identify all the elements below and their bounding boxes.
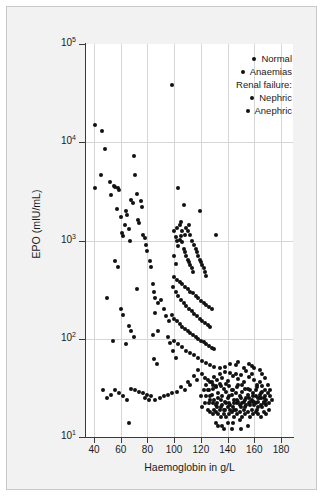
data-point (175, 390, 179, 394)
legend-heading: Renal failure: (196, 78, 292, 91)
data-point (252, 400, 256, 404)
data-point (246, 410, 250, 414)
legend-item: Anaemias (196, 65, 292, 78)
data-point (159, 298, 163, 302)
data-point (103, 147, 107, 151)
data-point (188, 233, 192, 237)
data-point (231, 421, 235, 425)
data-point (170, 391, 174, 395)
legend-marker-icon (252, 57, 256, 61)
x-tick-mark (281, 438, 282, 443)
data-point (211, 387, 215, 391)
legend-item: Nephric (196, 91, 292, 104)
data-point (246, 424, 250, 428)
data-point (171, 285, 175, 289)
data-point (132, 154, 136, 158)
x-tick-label: 120 (186, 444, 216, 455)
data-point (200, 405, 204, 409)
data-point (199, 394, 203, 398)
data-point (105, 396, 109, 400)
data-point (246, 387, 250, 391)
data-point (124, 209, 128, 213)
data-point (147, 398, 151, 402)
data-point (244, 403, 248, 407)
x-tick-mark (174, 438, 175, 443)
legend-item: Normal (196, 52, 292, 65)
legend-label: Anephric (255, 105, 293, 116)
data-point (133, 173, 137, 177)
data-point (222, 427, 226, 431)
data-point (250, 408, 254, 412)
data-point (236, 377, 240, 381)
legend-marker-icon (241, 70, 245, 74)
data-point (238, 418, 242, 422)
data-point (162, 307, 166, 311)
data-point (247, 396, 251, 400)
data-point (127, 421, 131, 425)
data-point (239, 373, 243, 377)
data-point (124, 342, 128, 346)
data-point (145, 249, 149, 253)
data-point (140, 205, 144, 209)
x-tick-label: 180 (266, 444, 296, 455)
data-point (153, 296, 157, 300)
data-point (111, 339, 115, 343)
data-point (212, 365, 216, 369)
data-point (183, 388, 187, 392)
data-point (219, 398, 223, 402)
data-point (151, 282, 155, 286)
data-point (168, 341, 172, 345)
data-point (109, 193, 113, 197)
data-point (135, 287, 139, 291)
data-point (220, 376, 224, 380)
data-point (191, 270, 195, 274)
data-point (152, 357, 156, 361)
data-point (214, 233, 218, 237)
data-point (109, 393, 113, 397)
legend: NormalAnaemiasRenal failure:NephricAneph… (196, 52, 292, 117)
data-point (188, 383, 192, 387)
data-point (238, 410, 242, 414)
data-point (236, 400, 240, 404)
x-axis-label: Haemoglobin in g/L (86, 461, 293, 473)
data-point (228, 362, 232, 366)
gridline-horizontal (86, 142, 293, 143)
x-tick-mark (201, 438, 202, 443)
data-point (170, 83, 174, 87)
data-point (215, 378, 219, 382)
data-point (93, 186, 97, 190)
y-tick-mark (79, 241, 85, 242)
data-point (180, 345, 184, 349)
x-tick-label: 100 (159, 444, 189, 455)
data-point (135, 192, 139, 196)
data-point (180, 240, 184, 244)
data-point (121, 234, 125, 238)
data-point (268, 388, 272, 392)
y-axis-label: EPO (mIU/mL) (30, 169, 42, 279)
data-point (218, 408, 222, 412)
data-point (242, 380, 246, 384)
data-point (162, 394, 166, 398)
data-point (255, 383, 259, 387)
data-point (247, 362, 251, 366)
data-point (252, 366, 256, 370)
data-point (227, 394, 231, 398)
data-point (171, 349, 175, 353)
data-point (260, 405, 264, 409)
data-point (153, 398, 157, 402)
data-point (174, 290, 178, 294)
data-point (131, 201, 135, 205)
y-tick-label: 101 (4, 430, 76, 441)
data-point (127, 324, 131, 328)
data-point (226, 379, 230, 383)
data-point (204, 274, 208, 278)
data-point (198, 209, 202, 213)
data-point (263, 376, 267, 380)
x-tick-label: 40 (79, 444, 109, 455)
data-point (156, 301, 160, 305)
y-tick-mark (79, 142, 85, 143)
data-point (101, 388, 105, 392)
data-point (166, 335, 170, 339)
figure-root: 101102103104105 406080100120140160180 EP… (0, 0, 329, 502)
data-point (242, 366, 246, 370)
